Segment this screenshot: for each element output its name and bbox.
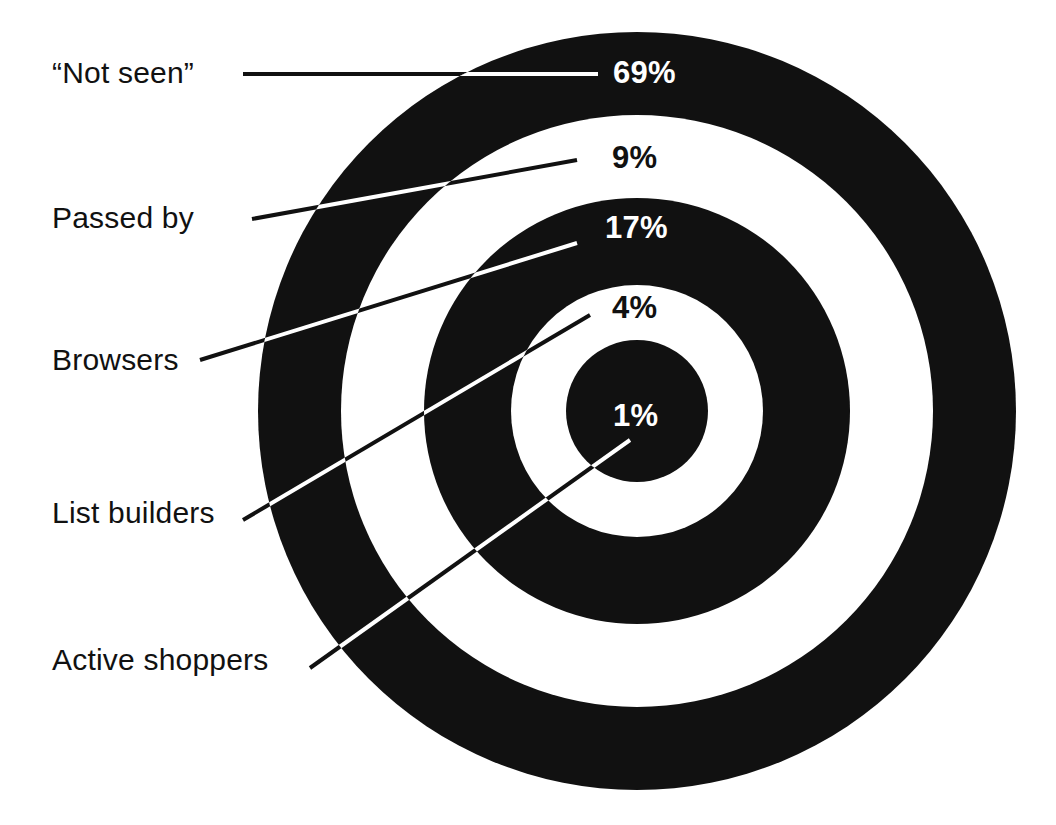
value-label-active-shoppers: 1% <box>613 400 658 431</box>
bullseye-chart: “Not seen” Passed by Browsers List build… <box>0 0 1056 825</box>
category-label-active-shoppers: Active shoppers <box>52 645 268 675</box>
category-label-passed-by: Passed by <box>52 203 194 233</box>
value-label-browsers: 17% <box>605 212 668 243</box>
category-label-not-seen: “Not seen” <box>52 58 194 88</box>
value-label-not-seen: 69% <box>613 57 676 88</box>
value-label-passed-by: 9% <box>612 142 657 173</box>
bullseye-diagram <box>0 0 1056 825</box>
category-label-list-builders: List builders <box>52 498 215 528</box>
category-label-browsers: Browsers <box>52 345 179 375</box>
value-label-list-builders: 4% <box>612 292 657 323</box>
